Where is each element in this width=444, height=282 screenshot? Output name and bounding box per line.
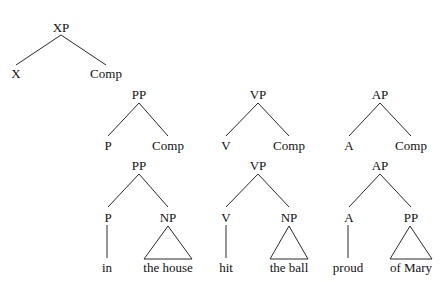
triangle-np (144, 226, 192, 259)
node-v: V (221, 210, 231, 225)
node-vp: VP (250, 87, 267, 102)
node-comp: Comp (90, 66, 122, 81)
edge-vp-comp (258, 103, 289, 136)
node-comp: Comp (152, 138, 184, 153)
node-xp: XP (53, 20, 70, 35)
triangle-np (270, 226, 308, 259)
edge-vp-v (226, 174, 258, 207)
phrase-structure-trees: XP X Comp PP P Comp VP V Comp AP A Comp … (0, 0, 444, 282)
node-np: NP (160, 210, 177, 225)
node-v: V (221, 138, 231, 153)
node-pp: PP (132, 158, 146, 173)
tree-vp-example: VP V NP hit the ball (219, 158, 309, 275)
edge-ap-a (349, 103, 380, 136)
node-vp: VP (250, 158, 267, 173)
tree-ap-schema: AP A Comp (344, 87, 427, 153)
tree-ap-example: AP A PP proud of Mary (333, 158, 433, 275)
edge-pp-np (139, 174, 168, 207)
tree-pp-schema: PP P Comp (104, 87, 184, 153)
node-ap: AP (372, 158, 389, 173)
node-a: A (344, 138, 354, 153)
node-pp: PP (404, 210, 418, 225)
word-head: proud (333, 260, 364, 275)
node-p: P (104, 138, 111, 153)
node-a: A (344, 210, 354, 225)
word-head: hit (219, 260, 233, 275)
edge-ap-a (349, 174, 380, 207)
node-x: X (11, 66, 21, 81)
triangle-pp (390, 226, 432, 259)
node-np: NP (281, 210, 298, 225)
edge-vp-np (258, 174, 289, 207)
node-comp: Comp (273, 138, 305, 153)
words-comp: of Mary (390, 260, 433, 275)
edge-xp-x (16, 35, 61, 65)
tree-vp-schema: VP V Comp (221, 87, 305, 153)
tree-pp-example: PP P NP in the house (102, 158, 193, 275)
edge-ap-comp (380, 103, 411, 136)
word-head: in (102, 260, 113, 275)
edge-pp-p (108, 174, 139, 207)
edge-xp-comp (61, 35, 106, 65)
node-comp: Comp (395, 138, 427, 153)
words-comp: the house (143, 260, 193, 275)
node-pp: PP (132, 87, 146, 102)
node-ap: AP (372, 87, 389, 102)
node-p: P (104, 210, 111, 225)
edge-vp-v (226, 103, 258, 136)
edge-pp-p (108, 103, 139, 136)
edge-ap-pp (380, 174, 411, 207)
words-comp: the ball (270, 260, 309, 275)
edge-pp-comp (139, 103, 168, 136)
tree-xp-schema: XP X Comp (11, 20, 122, 81)
